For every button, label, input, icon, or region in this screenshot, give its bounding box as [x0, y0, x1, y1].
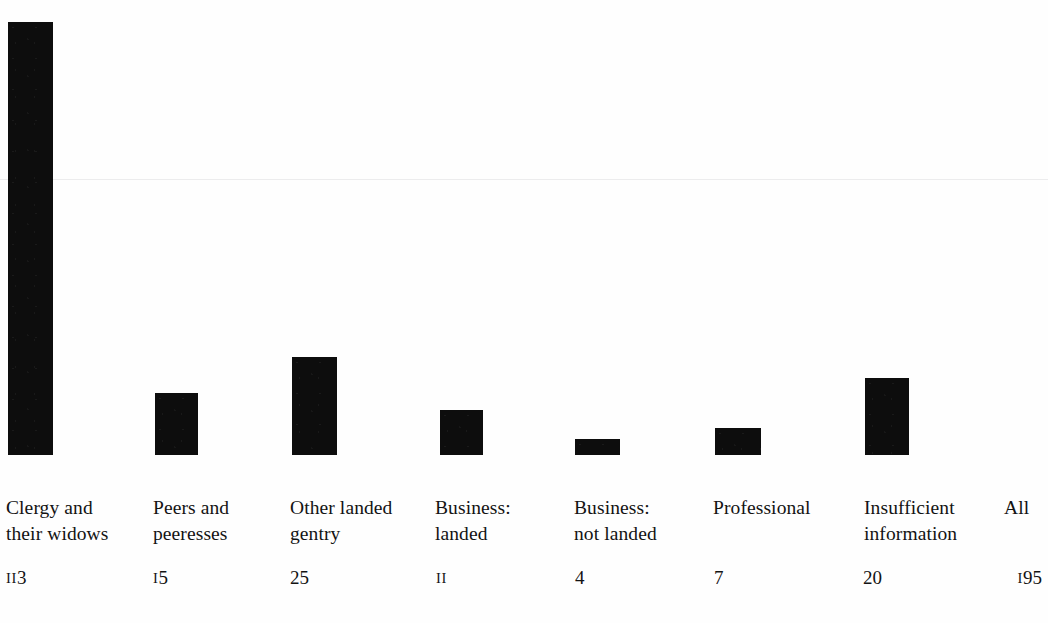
category-values-row: II3I525II4720I95 — [0, 566, 1048, 611]
category-value-0: II3 — [6, 566, 26, 591]
bar-1 — [155, 393, 198, 455]
category-label-5: Professional — [713, 495, 811, 521]
category-value-6: 20 — [863, 566, 882, 590]
category-label-6: Insufficient information — [864, 495, 957, 547]
bar-chart-figure: Clergy and their widowsPeers and peeress… — [0, 0, 1048, 623]
bar-6 — [865, 378, 909, 455]
category-label-0: Clergy and their widows — [6, 495, 108, 547]
category-value-5: 7 — [714, 566, 724, 590]
category-value-3: II — [436, 566, 447, 591]
category-label-4: Business: not landed — [574, 495, 657, 547]
category-value-7: I95 — [1018, 566, 1042, 591]
bar-0 — [8, 22, 53, 455]
bar-5 — [715, 428, 761, 455]
category-label-2: Other landed gentry — [290, 495, 392, 547]
category-label-3: Business: landed — [435, 495, 511, 547]
bar-3 — [440, 410, 483, 455]
bar-4 — [575, 439, 620, 455]
category-value-1: I5 — [153, 566, 168, 591]
bar-2 — [292, 357, 337, 455]
category-labels-row: Clergy and their widowsPeers and peeress… — [0, 455, 1048, 533]
category-label-1: Peers and peeresses — [153, 495, 229, 547]
category-label-7: All — [1004, 495, 1029, 521]
category-value-2: 25 — [290, 566, 309, 590]
plot-area — [0, 0, 1048, 455]
category-value-4: 4 — [575, 566, 585, 590]
